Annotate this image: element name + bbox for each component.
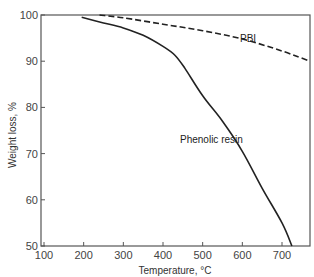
y-tick-label: 60 xyxy=(26,194,38,206)
x-tick-label: 600 xyxy=(233,249,251,261)
y-tick-label: 100 xyxy=(20,9,38,21)
x-tick-label: 300 xyxy=(114,249,132,261)
chart: 5060708090100 100200300400500600700 PBI … xyxy=(0,0,314,277)
plot-frame xyxy=(41,15,310,246)
x-tick-label: 100 xyxy=(35,249,53,261)
x-tick-label: 400 xyxy=(154,249,172,261)
y-tick-label: 90 xyxy=(26,55,38,67)
y-axis-title: Weight loss, % xyxy=(7,102,18,168)
pbi-curve xyxy=(100,15,310,61)
series-group xyxy=(82,15,310,246)
x-tick-label: 500 xyxy=(193,249,211,261)
phenolic-resin-label: Phenolic resin xyxy=(180,134,243,145)
x-tick-label: 200 xyxy=(74,249,92,261)
y-tick-label: 80 xyxy=(26,101,38,113)
y-tick-label: 70 xyxy=(26,148,38,160)
x-axis-title: Temperature, °C xyxy=(139,265,212,276)
pbi-label: PBI xyxy=(240,33,256,44)
phenolic-resin-curve xyxy=(82,17,292,246)
x-axis: 100200300400500600700 xyxy=(35,242,291,261)
x-tick-label: 700 xyxy=(273,249,291,261)
